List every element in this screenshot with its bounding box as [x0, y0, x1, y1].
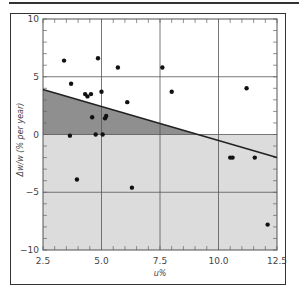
data-point [125, 100, 129, 104]
data-point [69, 81, 73, 85]
data-point [96, 56, 100, 60]
data-point [170, 90, 174, 94]
data-point [130, 185, 134, 189]
x-tick-label: 5.0 [94, 256, 109, 266]
data-point [68, 133, 72, 137]
x-tick-label: 12.5 [267, 256, 287, 266]
x-axis-label: u% [154, 269, 167, 278]
y-tick-label: −5 [26, 187, 39, 197]
y-tick-label: 0 [33, 130, 39, 140]
data-point [100, 132, 104, 136]
data-point [244, 86, 248, 90]
data-point [62, 58, 66, 62]
data-point [265, 222, 269, 226]
data-point [160, 65, 164, 69]
data-point [89, 92, 93, 96]
x-tick-label: 2.5 [36, 256, 50, 266]
y-axis-label: Δw/w (% per year) [16, 103, 25, 178]
data-point [93, 132, 97, 136]
scatter-chart: 2.55.07.510.012.51050−5−10u%Δw/w (% per … [0, 0, 299, 294]
data-point [99, 90, 103, 94]
y-tick-label: 5 [33, 72, 39, 82]
data-point [90, 115, 94, 119]
y-tick-label: 10 [28, 14, 40, 24]
x-tick-label: 10.0 [208, 256, 228, 266]
data-point [230, 155, 234, 159]
y-tick-label: −10 [20, 245, 39, 255]
data-point [75, 177, 79, 181]
data-point [104, 114, 108, 118]
x-tick-label: 7.5 [153, 256, 167, 266]
data-point [116, 65, 120, 69]
data-point [253, 155, 257, 159]
